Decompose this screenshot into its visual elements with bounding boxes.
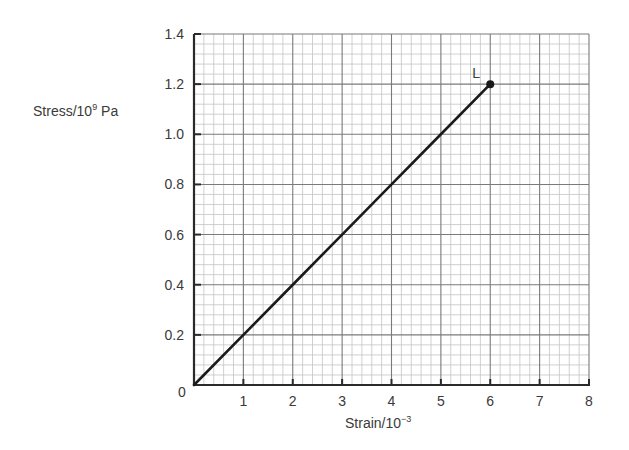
y-tick-label: 0.8 [165,176,185,192]
y-tick-label: 0.6 [165,227,185,243]
x-tick-label: 4 [388,393,396,409]
x-axis-label: Strain/10−3 [345,414,411,431]
x-tick-label: 5 [437,393,445,409]
x-tick-label: 3 [338,393,346,409]
y-tick-label: 1.0 [165,126,185,142]
y-tick-label: 0.2 [165,327,185,343]
y-tick-label: 1.2 [165,76,185,92]
stress-strain-chart: 12345678 0.20.40.60.81.01.21.4 L Stress/… [0,0,629,450]
x-tick-label: 8 [585,393,593,409]
x-tick-label: 7 [536,393,544,409]
y-axis-label: Stress/109 Pa [33,102,118,119]
x-tick-label: 2 [289,393,297,409]
y-tick-label: 1.4 [165,26,185,42]
origin-label: 0 [178,384,186,400]
x-tick-label: 6 [486,393,494,409]
x-tick-label: 1 [239,393,247,409]
point-label: L [472,65,480,81]
point-marker [486,80,494,88]
annotations: L [472,65,494,88]
y-tick-label: 0.4 [165,277,185,293]
y-tick-labels: 0.20.40.60.81.01.21.4 [165,26,185,343]
x-tick-labels: 12345678 [239,393,593,409]
